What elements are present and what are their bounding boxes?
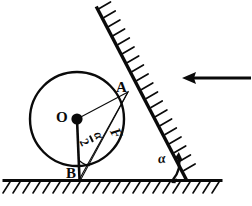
wall-hatching — [99, 2, 195, 171]
applied-force-arrow — [182, 72, 251, 84]
label-point-a: A — [116, 80, 127, 95]
ground-surface — [3, 181, 221, 194]
inclined-wall — [97, 2, 195, 179]
radius-OB-line — [77, 119, 80, 179]
center-dot-icon — [71, 113, 82, 124]
physics-figure: O A B F α α 2 — [0, 0, 252, 206]
label-angle-alpha: α — [157, 152, 167, 167]
label-center-o: O — [56, 110, 68, 125]
ground-hatching — [3, 182, 219, 193]
label-point-b: B — [66, 166, 76, 181]
figure-canvas — [0, 0, 252, 206]
